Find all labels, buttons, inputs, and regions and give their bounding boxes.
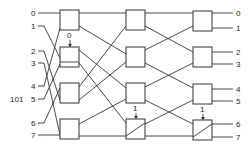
- output-label-0: 0: [236, 9, 241, 18]
- output-label-5: 5: [236, 97, 241, 106]
- control-bit-stage1: 0: [67, 31, 72, 40]
- output-label-1: 1: [236, 24, 241, 33]
- switch-1-1: [60, 10, 79, 30]
- switch-3-1: [193, 11, 212, 31]
- switch-1-3: [60, 83, 79, 103]
- source-address-label: 101: [10, 95, 24, 104]
- output-label-3: 3: [236, 60, 241, 69]
- switch-2-3: [126, 83, 145, 103]
- input-label-3: 3: [31, 59, 36, 68]
- output-label-6: 6: [236, 120, 241, 129]
- switch-2-2: [126, 47, 145, 67]
- input-label-4: 4: [31, 82, 36, 91]
- switch-1-4: [60, 119, 79, 139]
- input-wires: [38, 13, 62, 135]
- control-bit-stage2: 1: [133, 104, 138, 113]
- output-label-4: 4: [236, 85, 241, 94]
- input-label-0: 0: [31, 9, 36, 18]
- input-label-6: 6: [31, 119, 36, 128]
- stage-3: 1: [193, 11, 212, 140]
- stage-2: 1: [126, 10, 145, 139]
- stage-1-to-2-wires: [79, 13, 126, 136]
- control-bit-stage3: 1: [200, 105, 205, 114]
- input-label-1: 1: [31, 22, 36, 31]
- input-label-5: 5: [31, 95, 36, 104]
- switch-3-3: [193, 84, 212, 104]
- input-label-7: 7: [31, 131, 36, 140]
- output-label-7: 7: [236, 133, 241, 142]
- stage-1: 0: [60, 10, 79, 139]
- switch-1-2: [60, 47, 79, 67]
- stage-2-to-3-wires: [145, 13, 193, 136]
- input-label-2: 2: [31, 47, 36, 56]
- interconnection-network-diagram: 0 1 2 3 4 5 6 7 101 0 1 2 3 4 5 6 7 0: [0, 0, 249, 152]
- output-label-2: 2: [236, 48, 241, 57]
- switch-2-1: [126, 10, 145, 30]
- output-wires: [212, 13, 233, 137]
- switch-3-2: [193, 47, 212, 67]
